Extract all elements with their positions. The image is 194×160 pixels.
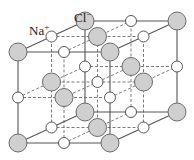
cl-ion-atom — [55, 89, 73, 107]
na-ion-atom — [105, 92, 116, 103]
na-ion-atom — [46, 31, 57, 42]
na-ion-atom — [126, 16, 137, 27]
cl-ion-atom — [101, 134, 119, 152]
cl-ion-atom — [9, 134, 27, 152]
na-ion-atom — [80, 61, 91, 72]
cl-ion-atom — [43, 73, 61, 91]
cl-ion-atom — [89, 28, 107, 46]
cl-ion-atom — [89, 119, 107, 137]
na-ion-atom — [59, 138, 70, 149]
na-ion-atom — [46, 122, 57, 133]
na-ion-atom — [92, 77, 103, 88]
cl-ion-atom — [76, 103, 94, 121]
na-ion-atom — [172, 61, 183, 72]
na-ion-atom — [13, 92, 24, 103]
na-ion-atom — [138, 122, 149, 133]
cl-ion-atom — [168, 103, 186, 121]
na-ion-atom — [59, 47, 70, 58]
cl-ion-atom — [122, 58, 140, 76]
cl-ion-atom — [135, 73, 153, 91]
nacl-lattice-diagram: Cl− Na+ — [0, 0, 194, 160]
na-ion-atom — [138, 31, 149, 42]
na-ion-atom — [126, 107, 137, 118]
cl-ion-atom — [168, 12, 186, 30]
cl-ion-atom — [101, 43, 119, 61]
cl-ion-atom — [9, 43, 27, 61]
